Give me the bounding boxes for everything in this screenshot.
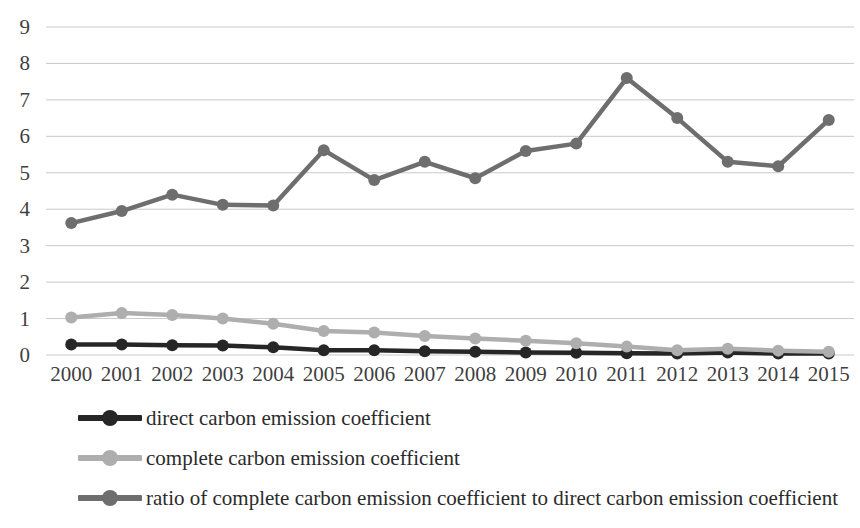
legend-key-icon bbox=[78, 489, 142, 507]
data-point[interactable] bbox=[116, 307, 128, 319]
x-tick-label: 2012 bbox=[656, 364, 698, 385]
legend-label: ratio of complete carbon emission coeffi… bbox=[146, 488, 838, 509]
y-tick-label: 5 bbox=[4, 162, 30, 183]
x-tick-label: 2008 bbox=[454, 364, 496, 385]
legend-marker-dot-icon bbox=[102, 490, 118, 506]
data-point[interactable] bbox=[469, 172, 481, 184]
x-tick-label: 2002 bbox=[151, 364, 193, 385]
x-tick-label: 2005 bbox=[303, 364, 345, 385]
x-tick-label: 2000 bbox=[50, 364, 92, 385]
data-point[interactable] bbox=[823, 346, 835, 358]
data-point[interactable] bbox=[772, 345, 784, 357]
data-point[interactable] bbox=[217, 313, 229, 325]
y-tick-label: 2 bbox=[4, 272, 30, 293]
data-point[interactable] bbox=[772, 160, 784, 172]
data-point[interactable] bbox=[419, 345, 431, 357]
data-point[interactable] bbox=[469, 346, 481, 358]
legend-marker-dot-icon bbox=[102, 410, 118, 426]
data-point[interactable] bbox=[570, 138, 582, 150]
y-tick-label: 4 bbox=[4, 199, 30, 220]
data-point[interactable] bbox=[621, 72, 633, 84]
x-tick-label: 2003 bbox=[202, 364, 244, 385]
legend-label: direct carbon emission coefficient bbox=[146, 408, 431, 429]
data-point[interactable] bbox=[267, 318, 279, 330]
legend-item[interactable]: direct carbon emission coefficient bbox=[0, 398, 860, 438]
data-point[interactable] bbox=[166, 189, 178, 201]
data-point[interactable] bbox=[671, 112, 683, 124]
data-point[interactable] bbox=[166, 339, 178, 351]
x-tick-label: 2004 bbox=[252, 364, 294, 385]
data-point[interactable] bbox=[65, 217, 77, 229]
data-point[interactable] bbox=[267, 341, 279, 353]
legend-key-icon bbox=[78, 449, 142, 467]
data-point[interactable] bbox=[368, 326, 380, 338]
legend-item[interactable]: ratio of complete carbon emission coeffi… bbox=[0, 478, 860, 518]
y-tick-label: 8 bbox=[4, 53, 30, 74]
data-point[interactable] bbox=[318, 144, 330, 156]
x-tick-label: 2015 bbox=[808, 364, 850, 385]
y-tick-label: 9 bbox=[4, 17, 30, 38]
chart-page: 0123456789 20002001200220032004200520062… bbox=[0, 0, 860, 528]
legend-key-icon bbox=[78, 409, 142, 427]
y-tick-label: 7 bbox=[4, 89, 30, 110]
data-point[interactable] bbox=[217, 340, 229, 352]
x-tick-label: 2006 bbox=[353, 364, 395, 385]
legend-item[interactable]: complete carbon emission coefficient bbox=[0, 438, 860, 478]
data-point[interactable] bbox=[318, 325, 330, 337]
chart-legend: direct carbon emission coefficientcomple… bbox=[0, 398, 860, 518]
data-point[interactable] bbox=[116, 205, 128, 217]
data-point[interactable] bbox=[368, 344, 380, 356]
data-point[interactable] bbox=[419, 156, 431, 168]
data-point[interactable] bbox=[217, 199, 229, 211]
x-tick-label: 2013 bbox=[707, 364, 749, 385]
data-point[interactable] bbox=[469, 333, 481, 345]
x-tick-label: 2011 bbox=[606, 364, 647, 385]
data-point[interactable] bbox=[65, 338, 77, 350]
data-point[interactable] bbox=[671, 344, 683, 356]
y-tick-label: 0 bbox=[4, 345, 30, 366]
x-tick-label: 2014 bbox=[757, 364, 799, 385]
data-point[interactable] bbox=[722, 156, 734, 168]
data-point[interactable] bbox=[520, 346, 532, 358]
legend-label: complete carbon emission coefficient bbox=[146, 448, 460, 469]
data-point[interactable] bbox=[823, 114, 835, 126]
data-point[interactable] bbox=[621, 341, 633, 353]
data-point[interactable] bbox=[267, 200, 279, 212]
series-layer bbox=[65, 72, 835, 360]
data-point[interactable] bbox=[318, 344, 330, 356]
data-point[interactable] bbox=[570, 337, 582, 349]
data-point[interactable] bbox=[166, 309, 178, 321]
gridlines bbox=[46, 27, 854, 355]
data-point[interactable] bbox=[368, 174, 380, 186]
x-tick-label: 2009 bbox=[505, 364, 547, 385]
data-point[interactable] bbox=[520, 145, 532, 157]
line-chart: 0123456789 20002001200220032004200520062… bbox=[0, 0, 860, 390]
data-point[interactable] bbox=[65, 311, 77, 323]
data-point[interactable] bbox=[520, 335, 532, 347]
x-tick-label: 2007 bbox=[404, 364, 446, 385]
legend-marker-dot-icon bbox=[102, 450, 118, 466]
chart-plot-svg bbox=[0, 0, 860, 390]
x-tick-label: 2001 bbox=[101, 364, 143, 385]
y-tick-label: 1 bbox=[4, 308, 30, 329]
y-tick-label: 3 bbox=[4, 235, 30, 256]
data-point[interactable] bbox=[116, 338, 128, 350]
data-point[interactable] bbox=[419, 330, 431, 342]
y-tick-label: 6 bbox=[4, 126, 30, 147]
x-tick-label: 2010 bbox=[555, 364, 597, 385]
data-point[interactable] bbox=[722, 343, 734, 355]
series-2 bbox=[65, 72, 835, 229]
